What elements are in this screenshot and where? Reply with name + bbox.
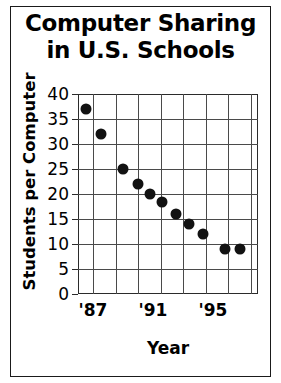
y-tick-label: 0 [58, 284, 69, 304]
data-point [220, 244, 231, 255]
y-tick-mark [72, 169, 78, 170]
y-tick-mark [72, 269, 78, 270]
y-tick-mark [72, 194, 78, 195]
chart-title-line-1: Computer Sharing [12, 10, 269, 37]
gridline-vertical [183, 94, 184, 294]
y-tick-mark [72, 219, 78, 220]
data-point [95, 129, 106, 140]
gridline-horizontal [78, 244, 258, 245]
data-point [184, 219, 195, 230]
x-tick-label: '87 [79, 300, 108, 320]
plot-area: 0510152025303540 '87'91'95 [78, 94, 258, 294]
data-point [170, 209, 181, 220]
data-point [118, 164, 129, 175]
chart-figure: Computer Sharing in U.S. Schools Student… [0, 0, 281, 383]
y-tick-mark [72, 244, 78, 245]
data-point [133, 179, 144, 190]
y-tick-label: 40 [47, 84, 69, 104]
y-tick-label: 35 [47, 109, 69, 129]
gridline-vertical [161, 94, 162, 294]
gridline-horizontal [78, 194, 258, 195]
gridline-horizontal [78, 119, 258, 120]
y-tick-label: 25 [47, 159, 69, 179]
y-tick-mark [72, 294, 78, 295]
y-tick-label: 30 [47, 134, 69, 154]
y-tick-mark [72, 94, 78, 95]
y-tick-label: 20 [47, 184, 69, 204]
gridline-vertical [228, 94, 229, 294]
gridline-horizontal [78, 219, 258, 220]
gridline-vertical [251, 94, 252, 294]
gridline-vertical [93, 94, 94, 294]
y-tick-label: 10 [47, 234, 69, 254]
gridline-horizontal [78, 169, 258, 170]
y-tick-mark [72, 119, 78, 120]
data-point [80, 104, 91, 115]
gridline-vertical [206, 94, 207, 294]
y-tick-mark [72, 144, 78, 145]
chart-title-line-2: in U.S. Schools [12, 37, 269, 64]
x-tick-label: '91 [139, 300, 168, 320]
y-tick-label: 15 [47, 209, 69, 229]
gridline-horizontal [78, 144, 258, 145]
x-axis-title: Year [78, 338, 258, 358]
data-point [157, 196, 168, 207]
data-point [145, 189, 156, 200]
y-tick-label: 5 [58, 259, 69, 279]
chart-title: Computer Sharing in U.S. Schools [12, 10, 269, 64]
gridline-vertical [138, 94, 139, 294]
gridline-horizontal [78, 269, 258, 270]
data-point [197, 229, 208, 240]
gridline-vertical [116, 94, 117, 294]
x-tick-label: '95 [199, 300, 228, 320]
y-axis-title: Students per Computer [20, 81, 39, 291]
data-point [235, 244, 246, 255]
